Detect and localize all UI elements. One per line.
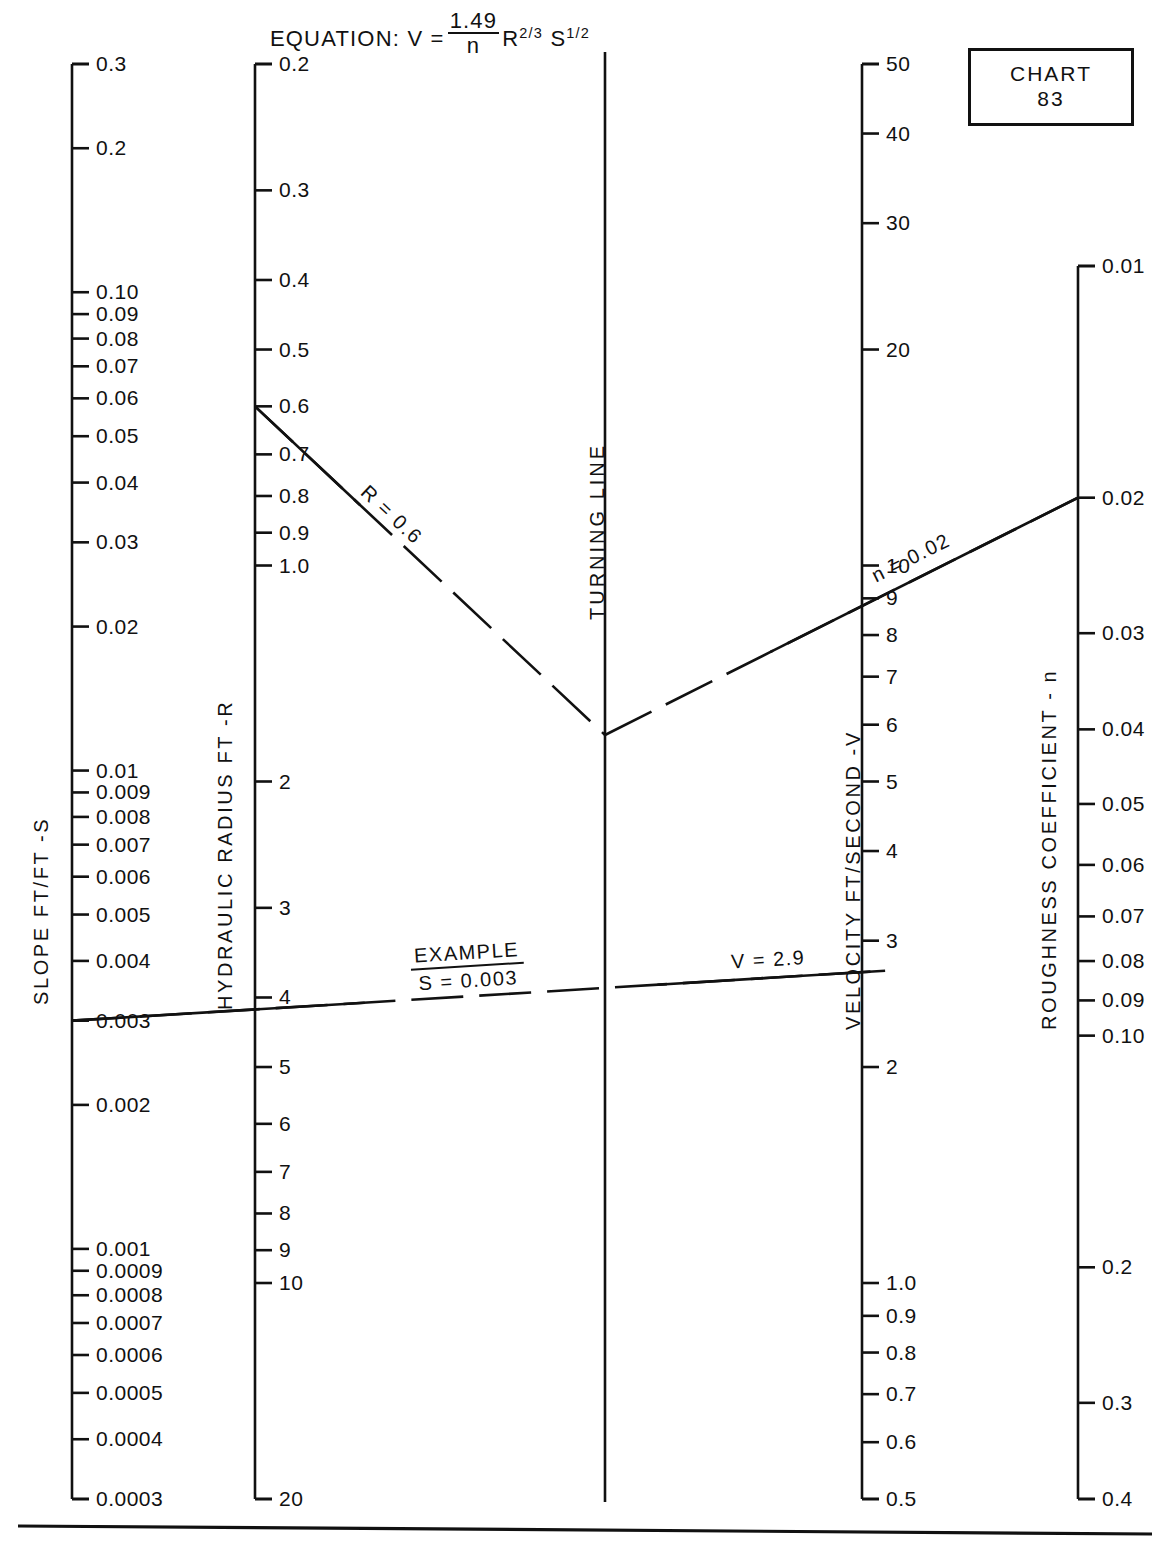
axis-tick-label: 0.02 — [1102, 486, 1145, 510]
axis-tick-label: 1.0 — [279, 554, 310, 578]
axis-title-velocity: VELOCITY FT/SECOND -V — [842, 730, 865, 1030]
axis-tick-label: 50 — [886, 52, 910, 76]
axis-tick-label: 0.2 — [1102, 1255, 1133, 1279]
axis-tick-label: 0.4 — [1102, 1487, 1133, 1511]
axis-tick-label: 0.6 — [279, 394, 310, 418]
nomograph-svg — [0, 0, 1167, 1555]
axis-tick-label: 0.009 — [96, 780, 151, 804]
axis-tick-label: 0.004 — [96, 949, 151, 973]
axis-tick-label: 6 — [279, 1112, 291, 1136]
axis-tick-label: 0.0003 — [96, 1487, 163, 1511]
axis-tick-label: 2 — [279, 770, 291, 794]
axis-tick-label: 0.0007 — [96, 1311, 163, 1335]
axis-tick-label: 0.07 — [1102, 904, 1145, 928]
axis-title-roughness: ROUGHNESS COEFFICIENT - n — [1038, 669, 1061, 1030]
axis-tick-label: 0.06 — [1102, 853, 1145, 877]
axis-tick-label: 0.0006 — [96, 1343, 163, 1367]
axis-tick-label: 7 — [279, 1160, 291, 1184]
axis-tick-label: 0.7 — [279, 442, 310, 466]
axis-tick-label: 0.3 — [1102, 1391, 1133, 1415]
axis-tick-label: 5 — [886, 770, 898, 794]
axis-tick-label: 0.03 — [96, 530, 139, 554]
axis-tick-label: 0.08 — [96, 327, 139, 351]
axis-tick-label: 0.7 — [886, 1382, 917, 1406]
axis-tick-label: 20 — [279, 1487, 303, 1511]
axis-tick-label: 0.9 — [279, 521, 310, 545]
axis-tick-label: 0.6 — [886, 1430, 917, 1454]
axis-tick-label: 0.05 — [1102, 792, 1145, 816]
axis-tick-label: 0.003 — [96, 1009, 151, 1033]
axis-tick-label: 8 — [886, 623, 898, 647]
axis-tick-label: 0.5 — [886, 1487, 917, 1511]
axis-tick-label: 0.005 — [96, 903, 151, 927]
axis-tick-label: 0.0005 — [96, 1381, 163, 1405]
axis-tick-label: 0.0009 — [96, 1259, 163, 1283]
axis-tick-label: 0.8 — [279, 484, 310, 508]
axis-tick-label: 6 — [886, 713, 898, 737]
axis-tick-label: 0.5 — [279, 338, 310, 362]
example-slope-annotation: EXAMPLES = 0.003 — [410, 938, 526, 995]
axis-tick-label: 0.2 — [279, 52, 310, 76]
axis-tick-label: 0.0008 — [96, 1283, 163, 1307]
axis-tick-label: 0.07 — [96, 354, 139, 378]
axis-tick-label: 0.007 — [96, 833, 151, 857]
axis-tick-label: 0.008 — [96, 805, 151, 829]
axis-tick-label: 3 — [886, 929, 898, 953]
axis-title-hydraulic_radius: HYDRAULIC RADIUS FT -R — [214, 700, 237, 1010]
axis-tick-label: 0.08 — [1102, 949, 1145, 973]
axis-tick-label: 0.02 — [96, 615, 139, 639]
axis-tick-label: 40 — [886, 122, 910, 146]
axis-tick-label: 0.2 — [96, 136, 127, 160]
axis-tick-label: 4 — [886, 839, 898, 863]
turning-line-label: TURNING LINE — [586, 443, 609, 620]
axis-tick-label: 9 — [279, 1238, 291, 1262]
axis-tick-label: 0.09 — [96, 302, 139, 326]
axis-tick-label: 0.001 — [96, 1237, 151, 1261]
axis-tick-label: 0.002 — [96, 1093, 151, 1117]
axis-tick-label: 2 — [886, 1055, 898, 1079]
axis-tick-label: 0.10 — [1102, 1024, 1145, 1048]
axis-tick-label: 0.09 — [1102, 988, 1145, 1012]
axis-tick-label: 0.04 — [1102, 717, 1145, 741]
axis-tick-label: 0.06 — [96, 386, 139, 410]
axis-tick-label: 0.4 — [279, 268, 310, 292]
axis-tick-label: 0.9 — [886, 1304, 917, 1328]
axis-tick-label: 0.03 — [1102, 621, 1145, 645]
axis-tick-label: 5 — [279, 1055, 291, 1079]
axis-tick-label: 0.01 — [1102, 254, 1145, 278]
axis-tick-label: 30 — [886, 211, 910, 235]
axis-tick-label: 0.3 — [96, 52, 127, 76]
axis-title-slope: SLOPE FT/FT -S — [30, 817, 53, 1005]
axis-tick-label: 3 — [279, 896, 291, 920]
axis-tick-label: 0.006 — [96, 865, 151, 889]
axis-tick-label: 9 — [886, 586, 898, 610]
nomograph-chart: EQUATION: V =1.49nR2/3 S1/2 CHART 83 0.3… — [0, 0, 1167, 1555]
axis-tick-label: 0.0004 — [96, 1427, 163, 1451]
axis-tick-label: 10 — [279, 1271, 303, 1295]
axis-tick-label: 0.01 — [96, 759, 139, 783]
axis-tick-label: 7 — [886, 665, 898, 689]
axis-tick-label: 20 — [886, 338, 910, 362]
axis-tick-label: 8 — [279, 1201, 291, 1225]
axis-tick-label: 1.0 — [886, 1271, 917, 1295]
axis-tick-label: 0.05 — [96, 424, 139, 448]
axis-tick-label: 0.04 — [96, 471, 139, 495]
axis-tick-label: 0.3 — [279, 178, 310, 202]
axis-tick-label: 0.8 — [886, 1341, 917, 1365]
example-velocity-text: V = 2.9 — [730, 946, 806, 973]
axis-tick-label: 4 — [279, 985, 291, 1009]
axis-tick-label: 0.10 — [96, 280, 139, 304]
